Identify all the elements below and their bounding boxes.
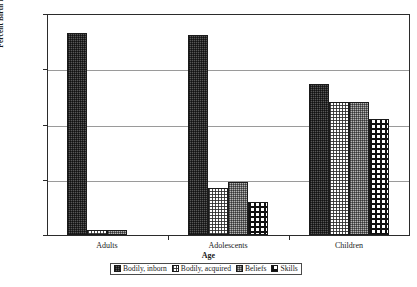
x-tick-mark-2 [289,236,290,240]
bar-children-bodily-inborn [309,84,329,235]
legend-label-bodily-acquired: Bodily, acquired [181,265,231,273]
legend-item-beliefs: Beliefs [236,265,267,273]
legend-swatch-bodily-inborn-icon [114,265,121,272]
bar-adults-bodily-inborn [67,33,87,235]
plot-area [47,14,410,236]
legend-item-skills: Skills [271,265,297,273]
x-tick-mark-1 [168,236,169,240]
legend-label-beliefs: Beliefs [245,265,267,273]
bar-children-skills [369,119,389,235]
bar-children-bodily-acquired [329,102,349,235]
x-tick-label-adolescents: Adolescents [168,241,288,250]
gridline-75 [48,70,409,71]
legend-item-bodily-inborn: Bodily, inborn [114,265,167,273]
x-tick-label-children: Children [289,241,409,250]
legend-label-bodily-inborn: Bodily, inborn [123,265,167,273]
bar-chart-figure: Percent Birth Parent Judgments 100 75 50… [0,0,417,287]
legend-item-bodily-acquired: Bodily, acquired [172,265,231,273]
legend-label-skills: Skills [280,265,297,273]
legend-swatch-beliefs-icon [236,265,243,272]
bar-adolescents-bodily-inborn [188,35,208,235]
chart-legend: Bodily, inborn Bodily, acquired Beliefs … [110,263,302,275]
x-tick-label-adults: Adults [47,241,167,250]
bar-adolescents-beliefs [228,182,248,235]
y-axis-title: Percent Birth Parent Judgments [0,0,5,60]
bar-adults-bodily-acquired [87,230,107,235]
x-axis-title: Age [0,251,417,260]
bar-adolescents-skills [248,202,268,235]
bar-adolescents-bodily-acquired [208,188,228,235]
legend-swatch-bodily-acquired-icon [172,265,179,272]
legend-swatch-skills-icon [271,265,278,272]
bar-adults-beliefs [107,230,127,235]
bar-children-beliefs [349,102,369,235]
